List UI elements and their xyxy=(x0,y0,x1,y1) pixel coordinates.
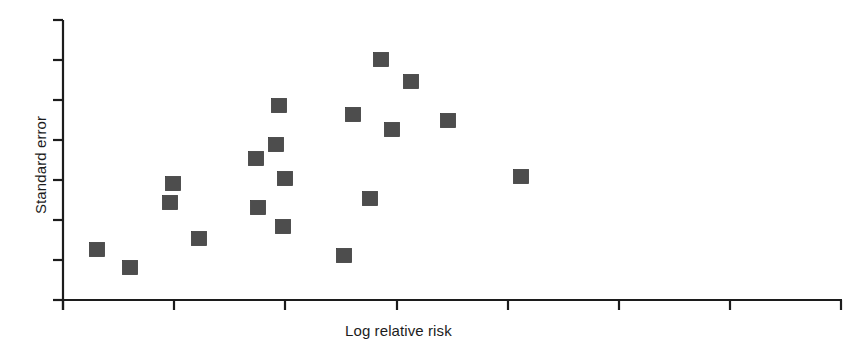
data-point-marker xyxy=(374,53,389,67)
y-axis-ticks xyxy=(53,20,63,300)
data-point-marker xyxy=(192,232,207,246)
x-axis-label: Log relative risk xyxy=(345,322,452,339)
data-point-marker xyxy=(90,243,105,257)
data-point-series xyxy=(90,53,529,275)
data-point-marker xyxy=(278,172,293,186)
x-axis-ticks xyxy=(63,300,841,310)
data-point-marker xyxy=(337,249,352,263)
data-point-marker xyxy=(269,138,284,152)
data-point-marker xyxy=(346,108,361,122)
data-point-marker xyxy=(123,261,138,275)
data-point-marker xyxy=(363,192,378,206)
data-point-marker xyxy=(163,196,178,210)
data-point-marker xyxy=(514,170,529,184)
data-point-marker xyxy=(166,177,181,191)
data-point-marker xyxy=(249,152,264,166)
data-point-marker xyxy=(251,201,266,215)
data-point-marker xyxy=(441,114,456,128)
x-axis xyxy=(55,300,842,310)
y-axis-label: Standard error xyxy=(32,116,49,214)
data-point-marker xyxy=(404,75,419,89)
y-axis xyxy=(53,20,63,310)
scatter-plot-canvas xyxy=(0,0,862,357)
funnel-plot-figure: Log relative risk Standard error xyxy=(0,0,862,357)
data-point-marker xyxy=(385,123,400,137)
data-point-marker xyxy=(272,99,287,113)
data-point-marker xyxy=(276,220,291,234)
